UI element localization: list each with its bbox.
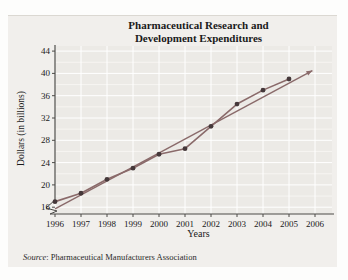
chart-title: Pharmaceutical Research and Development …: [58, 19, 339, 45]
svg-text:36: 36: [41, 91, 51, 101]
source-word: Source: [23, 252, 46, 262]
figure-page: 1620242832364044199619971998199920002001…: [0, 0, 348, 280]
chart-title-line1: Pharmaceutical Research and: [58, 19, 339, 32]
svg-text:20: 20: [41, 180, 51, 190]
chart-title-line2: Development Expenditures: [58, 32, 339, 45]
svg-text:32: 32: [41, 113, 50, 123]
svg-text:40: 40: [41, 68, 51, 78]
chart-panel: 1620242832364044199619971998199920002001…: [8, 15, 337, 267]
svg-text:28: 28: [41, 135, 51, 145]
x-axis-label: Years: [58, 228, 339, 239]
y-axis-label: Dollars (in billions): [16, 68, 29, 190]
svg-text:24: 24: [41, 158, 51, 168]
svg-text:16: 16: [41, 202, 51, 212]
source-text: : Pharmaceutical Manufacturers Associati…: [46, 252, 196, 262]
svg-text:44: 44: [41, 46, 51, 56]
source-note: Source: Pharmaceutical Manufacturers Ass…: [23, 252, 197, 262]
